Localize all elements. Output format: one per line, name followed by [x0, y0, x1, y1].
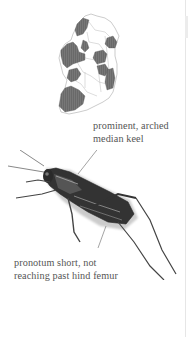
distribution-map: [55, 12, 135, 120]
annotation-line: pronotum short, not: [14, 257, 164, 270]
annotation-line: prominent, arched: [93, 120, 185, 133]
annotation-pronotum: pronotum short, not reaching past hind f…: [14, 257, 164, 282]
page-edge-tab: [185, 16, 188, 38]
annotation-line: reaching past hind femur: [14, 270, 164, 283]
annotation-median-keel: prominent, arched median keel: [93, 120, 185, 145]
book-page: prominent, arched median keel pronotum s…: [0, 0, 189, 337]
annotation-line: median keel: [93, 133, 185, 146]
